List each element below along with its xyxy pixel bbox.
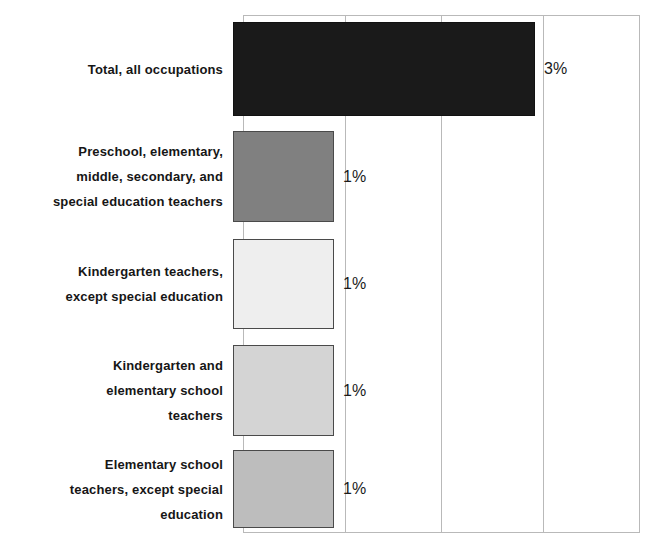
bar[interactable] <box>233 450 334 528</box>
category-label: Elementary schoolteachers, except specia… <box>0 452 233 527</box>
bar-zone: 1% <box>233 345 650 436</box>
category-label-line: Kindergarten and <box>0 353 223 378</box>
bar-value-label: 3% <box>535 61 567 77</box>
bar-row: Kindergarten teachers,except special edu… <box>0 239 650 329</box>
bar-row: Kindergarten andelementary schoolteacher… <box>0 345 650 436</box>
bar-row: Total, all occupations3% <box>0 22 650 116</box>
category-label: Preschool, elementary,middle, secondary,… <box>0 139 233 214</box>
bar-zone: 1% <box>233 450 650 528</box>
category-label-line: middle, secondary, and <box>0 164 223 189</box>
bar[interactable] <box>233 131 334 222</box>
bar-row: Preschool, elementary,middle, secondary,… <box>0 131 650 222</box>
bar-zone: 3% <box>233 22 650 116</box>
bar-chart: Total, all occupations3%Preschool, eleme… <box>0 0 650 547</box>
bar-value-label: 1% <box>334 481 366 497</box>
category-label-line: except special education <box>0 284 223 309</box>
bar[interactable] <box>233 239 334 329</box>
bar[interactable] <box>233 22 535 116</box>
category-label: Kindergarten teachers,except special edu… <box>0 259 233 309</box>
bar-value-label: 1% <box>334 383 366 399</box>
chart-title <box>0 0 650 5</box>
bar[interactable] <box>233 345 334 436</box>
category-label-line: Elementary school <box>0 452 223 477</box>
bar-value-label: 1% <box>334 276 366 292</box>
category-label: Kindergarten andelementary schoolteacher… <box>0 353 233 428</box>
category-label: Total, all occupations <box>0 57 233 82</box>
category-label-line: teachers <box>0 403 223 428</box>
category-label-line: special education teachers <box>0 189 223 214</box>
bar-zone: 1% <box>233 239 650 329</box>
category-label-line: Total, all occupations <box>0 57 223 82</box>
category-label-line: Kindergarten teachers, <box>0 259 223 284</box>
bar-row: Elementary schoolteachers, except specia… <box>0 450 650 528</box>
bar-zone: 1% <box>233 131 650 222</box>
category-label-line: teachers, except special <box>0 477 223 502</box>
bar-value-label: 1% <box>334 169 366 185</box>
category-label-line: elementary school <box>0 378 223 403</box>
category-label-line: education <box>0 502 223 527</box>
category-label-line: Preschool, elementary, <box>0 139 223 164</box>
